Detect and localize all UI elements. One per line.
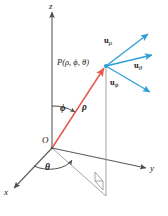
u-phi-subscript: ϕ xyxy=(115,81,119,89)
right-angle-marker-upper xyxy=(95,172,103,181)
origin-dot xyxy=(51,147,54,150)
u-phi-label: uϕ xyxy=(110,78,118,89)
u-theta-label: uθ xyxy=(134,61,142,72)
right-angle-marker xyxy=(95,181,103,190)
u-theta-subscript: θ xyxy=(139,64,142,72)
spherical-coordinates-figure: z y x O P(ρ, ϕ, θ) ϕ θ ρ uρ uθ uϕ xyxy=(0,0,168,216)
u-rho-label: uρ xyxy=(104,36,112,47)
y-axis-label: y xyxy=(150,164,154,173)
origin-label: O xyxy=(42,136,49,145)
point-p-dot xyxy=(104,64,108,68)
rho-label: ρ xyxy=(82,103,87,113)
z-axis-label: z xyxy=(49,2,53,11)
point-p-label: P(ρ, ϕ, θ) xyxy=(57,58,89,67)
phi-angle-label: ϕ xyxy=(60,104,66,114)
theta-angle-label: θ xyxy=(45,163,50,173)
x-axis-label: x xyxy=(4,188,8,197)
u-rho-subscript: ρ xyxy=(109,39,112,47)
xy-plane-projection-line xyxy=(52,148,106,196)
